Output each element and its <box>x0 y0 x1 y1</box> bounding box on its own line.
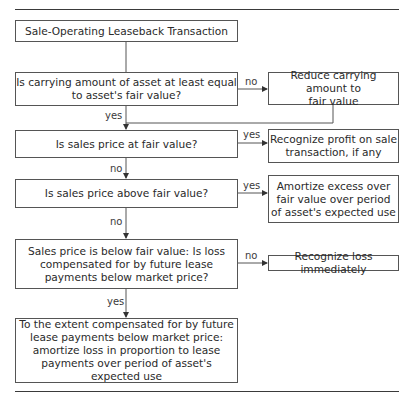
action-amortize-excess: Amortize excess over fair value over per… <box>268 175 399 223</box>
label-q3-no: no <box>110 216 122 227</box>
start-box: Sale-Operating Leaseback Transaction <box>15 20 238 42</box>
label-q4-yes: yes <box>107 296 124 307</box>
decision-sales-price-above-fair-value: Is sales price above fair value? <box>15 179 238 208</box>
label-q3-yes: yes <box>243 180 260 191</box>
decision-carrying-amount: Is carrying amount of asset at least equ… <box>15 72 238 106</box>
decision-loss-compensated: Sales price is below fair value: Is loss… <box>15 239 238 289</box>
label-q1-yes: yes <box>105 110 122 121</box>
action-amortize-loss: To the extent compensated for by future … <box>15 318 238 383</box>
decision-sales-price-at-fair-value: Is sales price at fair value? <box>15 130 238 158</box>
action-recognize-loss: Recognize loss immediately <box>268 255 399 271</box>
label-q2-no: no <box>110 163 122 174</box>
action-reduce-carrying-amount: Reduce carrying amount to fair value <box>268 72 399 105</box>
label-q2-yes: yes <box>243 129 260 140</box>
label-q1-no: no <box>245 76 257 87</box>
label-q4-no: no <box>245 250 257 261</box>
action-recognize-profit: Recognize profit on sale transaction, if… <box>268 129 399 163</box>
